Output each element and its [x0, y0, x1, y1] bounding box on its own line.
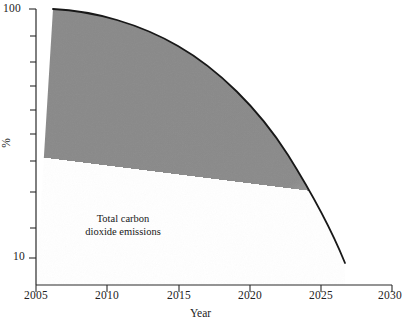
series-annotation-line2: dioxide emissions — [63, 225, 183, 238]
x-tick-label-2025: 2025 — [309, 289, 333, 301]
area-fill — [30, 0, 360, 290]
x-tick-label-2010: 2010 — [95, 289, 119, 301]
x-tick-label-2030: 2030 — [378, 289, 402, 301]
x-tick-label-2015: 2015 — [167, 289, 191, 301]
series-annotation: Total carbon dioxide emissions — [63, 212, 183, 238]
x-axis-title: Year — [0, 307, 401, 319]
x-tick-label-2005: 2005 — [24, 289, 48, 301]
y-tick-label-10: 10 — [13, 250, 25, 262]
y-axis-ticks — [29, 9, 36, 258]
y-tick-label-100: 100 — [3, 2, 21, 14]
y-axis-title: % — [0, 138, 12, 148]
x-tick-label-2020: 2020 — [238, 289, 262, 301]
x-axis-ticks — [36, 285, 392, 292]
series-annotation-line1: Total carbon — [63, 212, 183, 225]
